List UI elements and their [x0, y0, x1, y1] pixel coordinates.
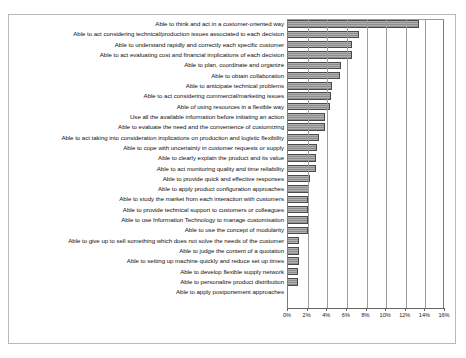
- bar: [287, 113, 325, 120]
- bar-row: Able to act evaluating cost and financia…: [12, 50, 444, 60]
- bar-row: Able to provide quick and effective resp…: [12, 174, 444, 184]
- bar: [287, 154, 316, 161]
- bar-category-label: Able to personalize product distribution: [12, 278, 287, 286]
- bar-category-label: Able to act evaluating cost and financia…: [12, 51, 287, 59]
- bar-track: [287, 102, 444, 112]
- bar-row: Able to clearly explain the product and …: [12, 153, 444, 163]
- bar-track: [287, 19, 444, 29]
- bar-track: [287, 40, 444, 50]
- x-axis-tick-label: 16%: [434, 312, 454, 318]
- bar: [287, 247, 299, 254]
- bar: [287, 237, 299, 244]
- bar-chart-figure: Able to think and act in a customer-orie…: [0, 0, 466, 358]
- bar-row: Able to act monitoring quality and time …: [12, 163, 444, 173]
- bar: [287, 82, 332, 89]
- bar-category-label: Able to clearly explain the product and …: [12, 154, 287, 162]
- bar-category-label: Able to use Information Technology to ma…: [12, 216, 287, 224]
- bar: [287, 216, 308, 223]
- bar-row: Able to setting up machine quickly and r…: [12, 256, 444, 266]
- bar: [287, 206, 308, 213]
- bar-track: [287, 225, 444, 235]
- x-axis-tick-label: 10%: [375, 312, 395, 318]
- bar: [287, 92, 331, 99]
- bar-track: [287, 153, 444, 163]
- bar-track: [287, 112, 444, 122]
- bar-row: Able of using resources in a flexible wa…: [12, 102, 444, 112]
- bar-category-label: Able to evaluate the need and the conven…: [12, 123, 287, 131]
- bar-row: Able to use Information Technology to ma…: [12, 215, 444, 225]
- bar-track: [287, 184, 444, 194]
- bar-category-label: Able to obtain collaboration: [12, 72, 287, 80]
- bar-row: Able to think and act in a customer-orie…: [12, 19, 444, 29]
- bar-track: [287, 60, 444, 70]
- bar-row: Able to cope with uncertainty in custome…: [12, 143, 444, 153]
- bar-category-label: Able of using resources in a flexible wa…: [12, 103, 287, 111]
- bar-category-label: Able to understand rapidly and correctly…: [12, 41, 287, 49]
- x-axis-tick-label: 2%: [297, 312, 317, 318]
- chart-plot-region: Able to think and act in a customer-orie…: [0, 0, 466, 358]
- bar-row: Able to judge the content of a quotation: [12, 246, 444, 256]
- bar-track: [287, 163, 444, 173]
- bar-category-label: Able to provide technical support to cus…: [12, 206, 287, 214]
- x-axis-tick: [346, 308, 347, 311]
- bar-track: [287, 236, 444, 246]
- x-axis-tick: [326, 308, 327, 311]
- bar-track: [287, 267, 444, 277]
- bar-category-label: Able to study the market from each inter…: [12, 195, 287, 203]
- bar: [287, 165, 316, 172]
- bar-track: [287, 29, 444, 39]
- bar-track: [287, 246, 444, 256]
- bar-track: [287, 205, 444, 215]
- bar-row: Able to act considering commercial/marke…: [12, 91, 444, 101]
- bar-category-label: Use all the available information before…: [12, 113, 287, 121]
- x-axis-tick: [366, 308, 367, 311]
- bar-track: [287, 194, 444, 204]
- bar-category-label: Able to plan, coordinate and organize: [12, 61, 287, 69]
- bar-row: Use all the available information before…: [12, 112, 444, 122]
- bar-row: Able to plan, coordinate and organize: [12, 60, 444, 70]
- bar: [287, 175, 310, 182]
- bar-category-label: Able to apply postponement approaches: [12, 288, 287, 296]
- bar-row: Able to provide technical support to cus…: [12, 205, 444, 215]
- bar: [287, 41, 352, 48]
- bar-category-label: Able to use the concept of modularity: [12, 226, 287, 234]
- x-axis-tick: [385, 308, 386, 311]
- x-axis-tick: [424, 308, 425, 311]
- bar: [287, 51, 352, 58]
- bar-track: [287, 122, 444, 132]
- bar: [287, 31, 359, 38]
- bar-track: [287, 277, 444, 287]
- x-axis-tick-label: 6%: [336, 312, 356, 318]
- bar: [287, 134, 319, 141]
- x-axis-tick-label: 0%: [277, 312, 297, 318]
- x-axis-tick-label: 8%: [356, 312, 376, 318]
- bar-row: Able to act taking into consideration im…: [12, 132, 444, 142]
- bar-track: [287, 215, 444, 225]
- bar-row: Able to act considering technical/produc…: [12, 29, 444, 39]
- bar-row: Able to study the market from each inter…: [12, 194, 444, 204]
- bar-track: [287, 143, 444, 153]
- bar-row: Able to evaluate the need and the conven…: [12, 122, 444, 132]
- bar: [287, 278, 298, 285]
- bar-category-label: Able to cope with uncertainty in custome…: [12, 144, 287, 152]
- bar-rows-container: Able to think and act in a customer-orie…: [12, 19, 444, 297]
- bar-track: [287, 132, 444, 142]
- bar-track: [287, 256, 444, 266]
- bar-category-label: Able to act considering commercial/marke…: [12, 92, 287, 100]
- bar-category-label: Able to judge the content of a quotation: [12, 247, 287, 255]
- x-axis-tick-label: 4%: [316, 312, 336, 318]
- bar-row: Able to apply postponement approaches: [12, 287, 444, 297]
- bar: [287, 20, 419, 27]
- bar-category-label: Able to setting up machine quickly and r…: [12, 257, 287, 265]
- bar-track: [287, 71, 444, 81]
- bar-category-label: Able to give up to sell something which …: [12, 237, 287, 245]
- bar: [287, 257, 299, 264]
- bar-row: Able to obtain collaboration: [12, 71, 444, 81]
- bar: [287, 196, 308, 203]
- x-axis-tick: [444, 308, 445, 311]
- bar-track: [287, 287, 444, 297]
- bar: [287, 185, 309, 192]
- bar-row: Able to personalize product distribution: [12, 277, 444, 287]
- bar: [287, 103, 330, 110]
- bar-category-label: Able to think and act in a customer-orie…: [12, 20, 287, 28]
